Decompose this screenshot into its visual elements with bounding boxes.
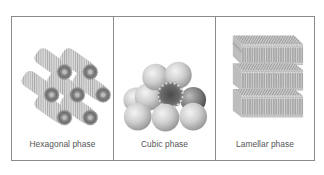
caption-lamellar: Lamellar phase xyxy=(216,139,314,149)
panel-cubic: Cubic phase xyxy=(114,17,216,160)
hexagonal-cylinder-bundle-icon xyxy=(12,17,113,137)
cubic-sphere-packing-icon xyxy=(114,17,215,137)
caption-hexagonal: Hexagonal phase xyxy=(12,139,113,149)
figure-frame: Hexagonal phase xyxy=(11,16,315,161)
lamellar-bilayer-stack-icon xyxy=(216,17,314,137)
panel-lamellar: Lamellar phase xyxy=(216,17,314,160)
panel-hexagonal: Hexagonal phase xyxy=(12,17,114,160)
caption-cubic: Cubic phase xyxy=(114,139,215,149)
